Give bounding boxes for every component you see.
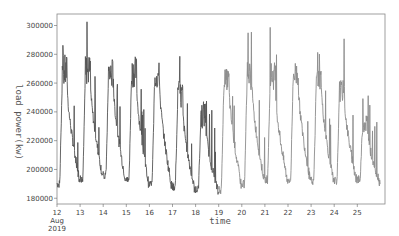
x-tick-label: 18 <box>191 209 200 217</box>
y-axis-ticks: 1800002000002200002400002600002800003000… <box>26 22 57 203</box>
y-axis-label: load power(kw) <box>14 84 24 160</box>
x-tick-label: 25 <box>353 209 362 217</box>
y-tick-label: 200000 <box>26 166 53 174</box>
x-tick-label: 13 <box>76 209 85 217</box>
y-tick-label: 180000 <box>26 195 53 203</box>
x-tick-label: 21 <box>260 209 269 217</box>
x-tick-sublabel-month: Aug <box>50 217 64 225</box>
x-tick-label: 14 <box>99 209 108 217</box>
y-tick-label: 240000 <box>26 108 53 116</box>
x-tick-label: 16 <box>145 209 154 217</box>
x-tick-label: 17 <box>168 209 177 217</box>
chart-figure: 1800002000002200002400002600002800003000… <box>0 0 399 236</box>
y-tick-label: 220000 <box>26 137 53 145</box>
x-tick-sublabel-year: 2019 <box>48 225 66 233</box>
y-tick-label: 300000 <box>26 22 53 30</box>
plot-area <box>57 14 385 204</box>
x-tick-label: 12 <box>53 209 62 217</box>
x-tick-label: 23 <box>307 209 316 217</box>
x-tick-label: 24 <box>330 209 339 217</box>
x-tick-label: 22 <box>284 209 293 217</box>
x-tick-label: 20 <box>237 209 246 217</box>
y-tick-label: 260000 <box>26 80 53 88</box>
x-axis-label: time <box>209 216 231 226</box>
y-tick-label: 280000 <box>26 51 53 59</box>
x-axis-ticks: 1213141516171819202122232425 <box>53 204 362 217</box>
x-tick-label: 15 <box>122 209 131 217</box>
